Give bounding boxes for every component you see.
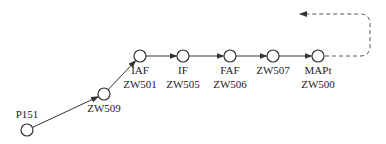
waypoint-label: P151 (16, 108, 39, 120)
waypoint-circle-icon (267, 50, 279, 62)
waypoint-circle-icon (312, 50, 324, 62)
waypoint-label: ZW501 (123, 78, 157, 90)
waypoint-label: ZW505 (166, 78, 200, 90)
waypoint-label: ZW507 (256, 64, 290, 76)
waypoint-label: ZW506 (213, 78, 247, 90)
waypoint-circle-icon (134, 50, 146, 62)
waypoint-label: FAF (220, 64, 239, 76)
waypoint-circle-icon (177, 50, 189, 62)
missed-approach-dashed-path (300, 14, 370, 56)
waypoint-zw509: ZW509 (87, 88, 121, 114)
route-nodes: P151ZW509IAFZW501IFZW505FAFZW506ZW507MAP… (16, 50, 336, 136)
waypoint-label: MAPt (305, 64, 332, 76)
waypoint-circle-icon (224, 50, 236, 62)
waypoint-p151: P151 (16, 108, 39, 136)
waypoint-label: ZW509 (87, 102, 121, 114)
waypoint-label: ZW500 (301, 78, 335, 90)
waypoint-label: IF (178, 64, 188, 76)
waypoint-circle-icon (98, 88, 110, 100)
waypoint-circle-icon (21, 124, 33, 136)
waypoint-zw507: ZW507 (256, 50, 290, 76)
route-diagram: P151ZW509IAFZW501IFZW505FAFZW506ZW507MAP… (0, 0, 386, 144)
waypoint-label: IAF (131, 64, 149, 76)
